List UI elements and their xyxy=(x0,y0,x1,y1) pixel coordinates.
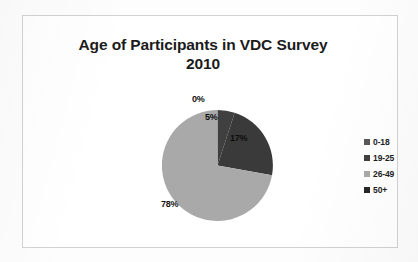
chart-title: Age of Participants in VDC Survey 2010 xyxy=(53,36,353,74)
chart-frame: Age of Participants in VDC Survey 2010 0… xyxy=(22,15,398,248)
legend-swatch-icon xyxy=(364,187,370,193)
legend-swatch-icon xyxy=(364,155,370,161)
chart-legend: 0-18 19-25 26-49 50+ xyxy=(364,134,416,198)
legend-item-50-plus: 50+ xyxy=(364,182,416,198)
pie-data-label-50-plus: 17% xyxy=(230,133,247,143)
legend-label-26-49: 26-49 xyxy=(373,169,394,179)
scanned-page: Age of Participants in VDC Survey 2010 0… xyxy=(0,0,418,262)
legend-label-19-25: 19-25 xyxy=(373,153,394,163)
legend-swatch-icon xyxy=(364,139,370,145)
pie-chart-plot-area xyxy=(162,110,273,221)
legend-swatch-icon xyxy=(364,171,370,177)
pie-data-label-26-49: 78% xyxy=(161,199,178,209)
pie-chart-svg xyxy=(162,110,273,221)
chart-title-line-1: Age of Participants in VDC Survey xyxy=(53,36,353,55)
legend-label-50-plus: 50+ xyxy=(373,185,387,195)
chart-title-line-2: 2010 xyxy=(53,55,353,74)
legend-item-26-49: 26-49 xyxy=(364,166,416,182)
pie-data-label-0-18: 0% xyxy=(192,94,205,104)
legend-item-19-25: 19-25 xyxy=(364,150,416,166)
legend-item-0-18: 0-18 xyxy=(364,134,416,150)
legend-label-0-18: 0-18 xyxy=(373,137,390,147)
pie-data-label-19-25: 5% xyxy=(205,112,218,122)
